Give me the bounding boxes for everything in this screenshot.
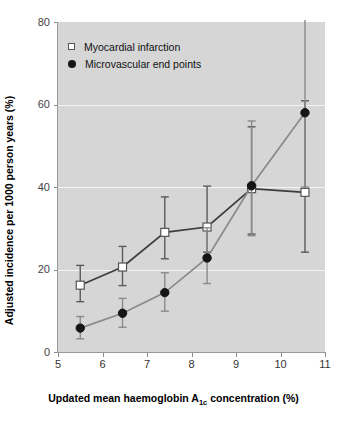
x-axis-label-post: concentration (%) xyxy=(207,392,299,404)
data-point-marker xyxy=(119,263,127,271)
data-point-marker xyxy=(118,309,126,317)
data-point-marker xyxy=(247,182,255,190)
data-point-marker xyxy=(203,254,211,262)
data-point-marker xyxy=(76,281,84,289)
legend-label: Microvascular end points xyxy=(85,58,201,70)
chart-legend: Myocardial infarction Microvascular end … xyxy=(68,38,201,72)
filled-circle-icon xyxy=(68,60,76,68)
data-point-marker xyxy=(161,288,169,296)
series-line xyxy=(80,113,305,328)
x-axis-label-pre: Updated mean haemoglobin A xyxy=(48,392,199,404)
legend-label: Myocardial infarction xyxy=(84,41,180,53)
x-axis-label-subscript: 1c xyxy=(199,398,207,407)
data-point-marker xyxy=(161,228,169,236)
data-point-marker xyxy=(76,324,84,332)
data-point-marker xyxy=(301,109,309,117)
legend-item-myocardial-infarction: Myocardial infarction xyxy=(68,38,201,55)
x-axis-label: Updated mean haemoglobin A1c concentrati… xyxy=(0,392,347,407)
chart-figure: 020406080 567891011 Myocardial infarctio… xyxy=(0,0,347,421)
data-point-marker xyxy=(301,188,309,196)
series-myocardial-infarction xyxy=(76,101,309,302)
open-square-icon xyxy=(68,43,75,50)
y-axis-label: Adjusted incidence per 1000 person years… xyxy=(0,0,20,421)
legend-item-microvascular-end-points: Microvascular end points xyxy=(68,55,201,72)
